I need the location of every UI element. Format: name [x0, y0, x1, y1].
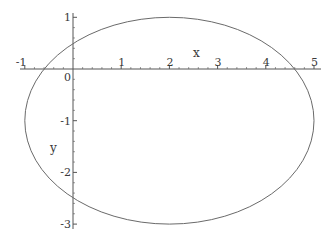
- x-axis-label: x: [193, 46, 200, 60]
- y-tick-label: -1: [60, 115, 71, 128]
- y-tick-label: 1: [64, 11, 71, 24]
- y-tick-label: -3: [60, 218, 71, 231]
- y-axis-label: y: [49, 141, 57, 155]
- x-tick-label: 4: [263, 56, 270, 69]
- x-tick-label: 5: [311, 56, 318, 69]
- x-tick-label: 3: [215, 56, 222, 69]
- x-tick-label: 2: [166, 56, 173, 69]
- y-tick-label: -2: [60, 166, 71, 179]
- x-tick-label: 1: [118, 56, 125, 69]
- ellipse-plot: -10123451-1-2-3 x y: [0, 0, 331, 243]
- x-tick-label: 0: [64, 71, 71, 84]
- tick-labels: -10123451-1-2-3: [16, 11, 318, 231]
- x-tick-label: -1: [16, 56, 27, 69]
